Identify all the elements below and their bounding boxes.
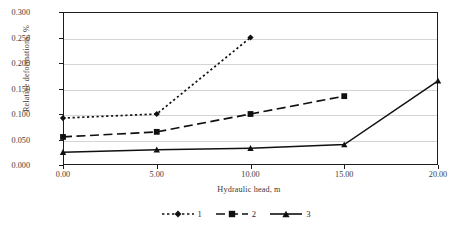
y-tick-mark	[59, 89, 63, 90]
x-tick-mark	[344, 165, 345, 169]
chart-legend: 1 2 3	[0, 209, 471, 219]
gridline	[64, 141, 437, 142]
y-axis-title: Relative deformations, %	[22, 0, 31, 144]
y-tick-mark	[59, 63, 63, 64]
gridline	[64, 39, 437, 40]
y-tick-label: 0.000	[0, 161, 30, 170]
x-tick-mark	[63, 165, 64, 169]
y-tick-mark	[59, 114, 63, 115]
y-tick-mark	[59, 140, 63, 141]
x-axis-title: Hydraulic head, m	[60, 185, 438, 194]
x-tick-label: 15.00	[321, 170, 367, 179]
y-tick-label: 0.300	[0, 8, 30, 17]
legend-label-3: 3	[306, 210, 310, 219]
x-tick-label: 5.00	[134, 170, 180, 179]
chart-figure: Relative deformations, % 0.0000.0500.100…	[0, 0, 471, 235]
y-tick-label: 0.100	[0, 110, 30, 119]
legend-item-3[interactable]: 3	[269, 209, 310, 219]
legend-swatch-solid-triangle-icon	[269, 209, 303, 219]
y-tick-label: 0.050	[0, 135, 30, 144]
legend-item-1[interactable]: 1	[161, 209, 202, 219]
legend-swatch-dashed-square-icon	[215, 209, 249, 219]
y-tick-label: 0.150	[0, 84, 30, 93]
gridline	[64, 90, 437, 91]
legend-label-1: 1	[198, 210, 202, 219]
gridline	[64, 115, 437, 116]
legend-item-2[interactable]: 2	[215, 209, 256, 219]
plot-area	[63, 12, 438, 165]
x-tick-label: 10.00	[228, 170, 274, 179]
x-tick-label: 0.00	[40, 170, 86, 179]
x-tick-mark	[251, 165, 252, 169]
y-tick-label: 0.250	[0, 33, 30, 42]
y-tick-mark	[59, 38, 63, 39]
legend-swatch-dotted-diamond-icon	[161, 209, 195, 219]
y-tick-mark	[59, 12, 63, 13]
x-tick-label: 20.00	[415, 170, 461, 179]
gridline	[64, 64, 437, 65]
legend-label-2: 2	[252, 210, 256, 219]
y-tick-label: 0.200	[0, 59, 30, 68]
x-tick-mark	[157, 165, 158, 169]
x-tick-mark	[438, 165, 439, 169]
